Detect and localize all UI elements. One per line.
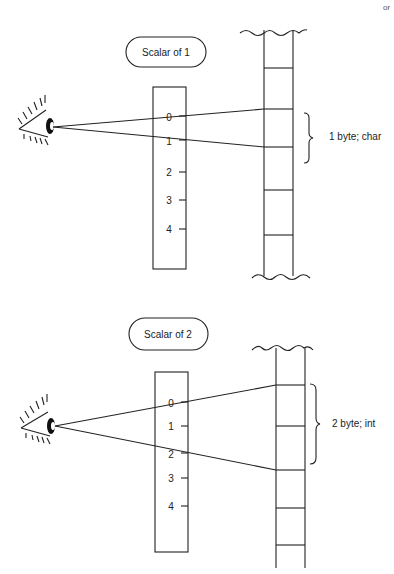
ruler-tick-3: 3 bbox=[166, 195, 172, 206]
ruler-tick-1: 1 bbox=[168, 421, 174, 432]
brace bbox=[304, 113, 313, 163]
eye-icon bbox=[20, 394, 55, 444]
brace-label: 1 byte; char bbox=[329, 131, 382, 142]
scalar-label-box: Scalar of 1 bbox=[126, 37, 206, 67]
ruler-tick-3: 3 bbox=[168, 473, 174, 484]
ruler: 0 1 2 3 4 bbox=[155, 372, 188, 552]
ruler-tick-2: 2 bbox=[168, 449, 174, 460]
panel-scalar-2: Scalar of 2 0 1 2 3 4 bbox=[20, 318, 376, 568]
memory-column bbox=[252, 346, 313, 569]
scalar-label: Scalar of 1 bbox=[142, 47, 190, 58]
panel-scalar-1: Scalar of 1 0 1 2 3 bbox=[18, 30, 382, 280]
ruler-tick-0: 0 bbox=[166, 112, 172, 123]
corner-text: or bbox=[383, 3, 390, 12]
brace bbox=[310, 384, 320, 464]
ruler-tick-2: 2 bbox=[166, 167, 172, 178]
brace-label: 2 byte; int bbox=[332, 418, 376, 429]
ruler-tick-4: 4 bbox=[166, 224, 172, 235]
scalar-label-box: Scalar of 2 bbox=[129, 318, 208, 350]
memory-column bbox=[240, 30, 310, 280]
ruler-tick-1: 1 bbox=[166, 136, 172, 147]
diagram-canvas: or Scalar of 1 0 1 2 bbox=[0, 0, 394, 574]
scalar-label: Scalar of 2 bbox=[144, 329, 192, 340]
ruler-tick-4: 4 bbox=[168, 501, 174, 512]
ruler-tick-0: 0 bbox=[168, 398, 174, 409]
ruler: 0 1 2 3 4 bbox=[153, 87, 186, 269]
eye-icon bbox=[18, 95, 54, 145]
